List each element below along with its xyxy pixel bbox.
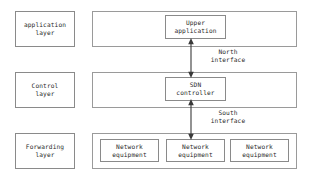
layer-label-forwarding: Forwarding layer: [15, 133, 75, 169]
node-network-equipment-1: Network equipment: [100, 139, 159, 162]
node-network-equipment-2: Network equipment: [166, 139, 225, 162]
label-south-interface: South interface: [199, 109, 257, 125]
node-network-equipment-3: Network equipment: [230, 139, 289, 162]
label-north-interface: North interface: [199, 48, 257, 64]
node-sdn-controller: SDN controller: [165, 77, 226, 101]
layer-label-application: application layer: [15, 11, 75, 47]
layer-label-control: Control layer: [15, 72, 75, 108]
sdn-architecture-diagram: application layer Control layer Forwardi…: [0, 0, 311, 180]
node-upper-application: Upper application: [165, 15, 226, 39]
